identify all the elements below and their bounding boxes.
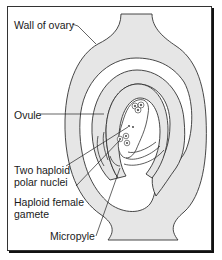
label-ovule: Ovule <box>14 109 41 121</box>
label-micropyle: Micropyle <box>50 230 95 242</box>
ovary-diagram <box>0 0 222 260</box>
label-polar-nuclei-line1: Two haploid <box>14 164 70 176</box>
wall-of-ovary-leader <box>72 24 96 44</box>
label-polar-nuclei-line2: polar nuclei <box>14 176 68 188</box>
label-female-gamete-line2: gamete <box>14 208 49 220</box>
label-female-gamete-line1: Haploid female <box>14 196 84 208</box>
label-wall-of-ovary: Wall of ovary <box>14 19 74 31</box>
